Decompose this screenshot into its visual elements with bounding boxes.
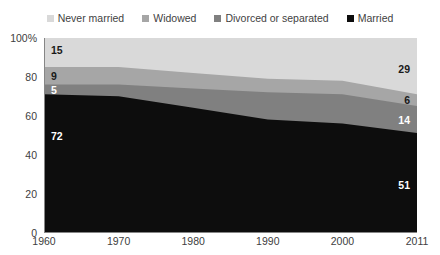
legend-label-never-married: Never married bbox=[58, 13, 125, 24]
plot-area: 15 9 5 72 29 6 14 51 bbox=[44, 38, 417, 232]
y-axis-tick-20: 20 bbox=[25, 189, 37, 200]
x-axis-tick-1990: 1990 bbox=[256, 236, 279, 247]
x-axis-tick-2000: 2000 bbox=[331, 236, 354, 247]
y-axis: 100% 80 60 40 20 0 bbox=[0, 31, 40, 239]
legend-swatch-married-icon bbox=[347, 15, 354, 22]
legend-swatch-never-married-icon bbox=[47, 15, 54, 22]
data-label-never-married-end: 29 bbox=[398, 64, 410, 75]
data-label-widowed-end: 6 bbox=[404, 95, 410, 106]
y-axis-line bbox=[44, 38, 45, 233]
legend-label-divorced-or-separated: Divorced or separated bbox=[225, 13, 328, 24]
x-axis-tick-1980: 1980 bbox=[182, 236, 205, 247]
data-label-widowed-start: 9 bbox=[51, 71, 57, 82]
x-axis-tick-1970: 1970 bbox=[107, 236, 130, 247]
x-axis-tick-2011: 2011 bbox=[406, 236, 429, 247]
area-series-svg bbox=[44, 38, 417, 232]
stacked-area-chart: Never married Widowed Divorced or separa… bbox=[0, 0, 440, 255]
legend-item-widowed[interactable]: Widowed bbox=[142, 13, 196, 24]
data-label-divorced-or-separated-end: 14 bbox=[398, 115, 410, 126]
legend-label-widowed: Widowed bbox=[153, 13, 196, 24]
data-label-divorced-or-separated-start: 5 bbox=[51, 85, 57, 96]
legend-item-married[interactable]: Married bbox=[347, 13, 394, 24]
legend-item-divorced-or-separated[interactable]: Divorced or separated bbox=[214, 13, 328, 24]
data-label-married-start: 72 bbox=[51, 131, 63, 142]
y-axis-tick-80: 80 bbox=[25, 72, 37, 83]
legend-label-married: Married bbox=[358, 13, 394, 24]
y-axis-tick-100: 100% bbox=[10, 33, 37, 44]
legend-item-never-married[interactable]: Never married bbox=[47, 13, 125, 24]
y-axis-tick-40: 40 bbox=[25, 150, 37, 161]
legend-swatch-widowed-icon bbox=[142, 15, 149, 22]
legend-swatch-divorced-or-separated-icon bbox=[214, 15, 221, 22]
x-axis-tick-1960: 1960 bbox=[32, 236, 55, 247]
data-label-married-end: 51 bbox=[398, 180, 410, 191]
y-axis-tick-60: 60 bbox=[25, 111, 37, 122]
chart-legend: Never married Widowed Divorced or separa… bbox=[0, 9, 440, 27]
x-axis-line bbox=[44, 232, 417, 233]
x-axis: 1960 1970 1980 1990 2000 2011 bbox=[0, 234, 440, 254]
data-label-never-married-start: 15 bbox=[51, 45, 63, 56]
